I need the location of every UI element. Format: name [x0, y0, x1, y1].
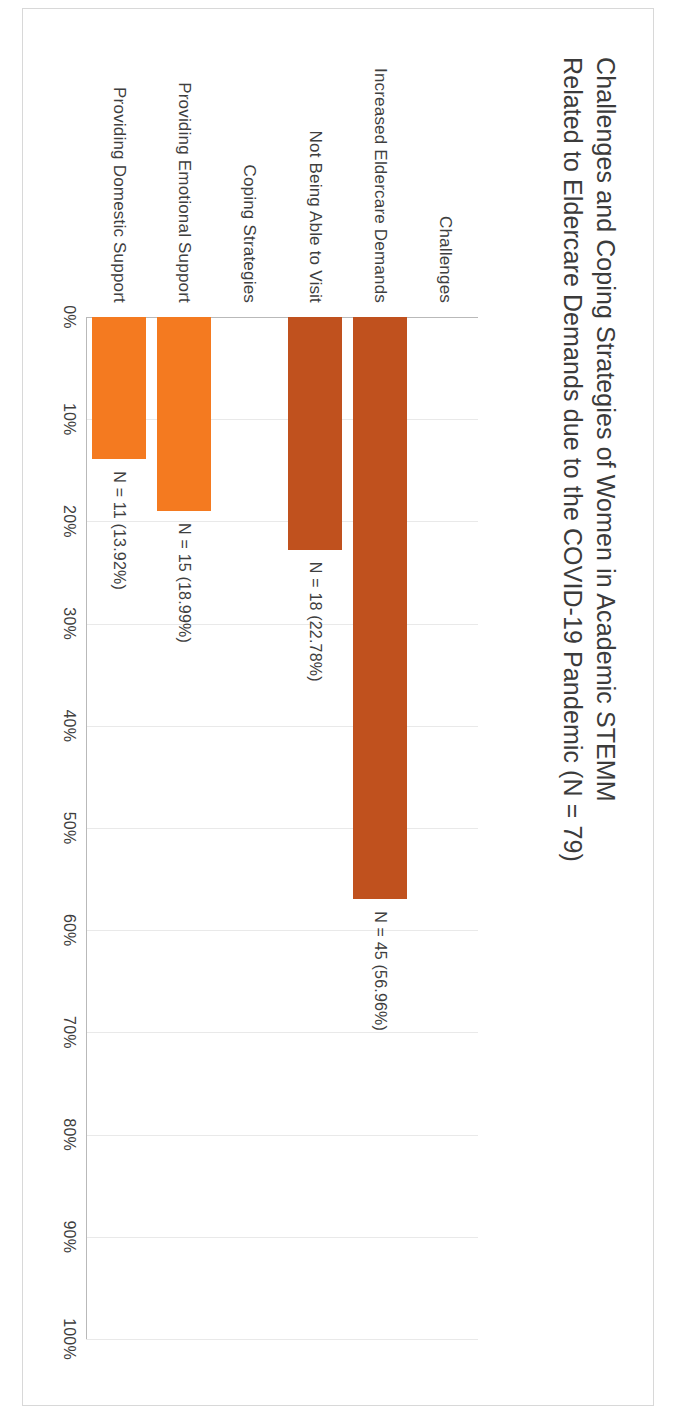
value-tick-label: 50%	[60, 812, 78, 845]
bar-row: N = 11 (13.92%)	[92, 317, 146, 1339]
bar-value-label: N = 45 (56.96%)	[371, 911, 389, 1031]
page-frame: Challenges and Coping Strategies of Wome…	[22, 8, 654, 1406]
rotated-chart-container: Challenges and Coping Strategies of Wome…	[28, 17, 648, 1397]
category-label: Providing Domestic Support	[109, 87, 129, 303]
bar-value-label: N = 11 (13.92%)	[110, 471, 128, 590]
value-tick-label: 40%	[60, 709, 78, 742]
bar-row: N = 18 (22.78%)	[288, 317, 342, 1339]
value-tick-label: 100%	[60, 1318, 78, 1360]
category-label: Providing Emotional Support	[174, 82, 194, 303]
category-axis-line	[86, 317, 87, 1339]
bar-value-label: N = 18 (22.78%)	[306, 562, 324, 682]
bar[interactable]	[353, 317, 407, 899]
value-tick-label: 10%	[60, 403, 78, 436]
value-tick-label: 70%	[60, 1016, 78, 1049]
value-tick-label: 30%	[60, 607, 78, 640]
gridline-100%	[86, 1339, 478, 1340]
value-tick-label: 80%	[60, 1118, 78, 1151]
category-label: Coping Strategies	[239, 164, 259, 303]
value-tick-label: 90%	[60, 1220, 78, 1253]
value-tick-label: 60%	[60, 914, 78, 947]
category-label: Challenges	[435, 216, 455, 303]
bar-value-label: N = 15 (18.99%)	[175, 523, 193, 643]
bar[interactable]	[288, 317, 342, 550]
value-axis-labels: 0%10%20%30%40%50%60%70%80%90%100%	[46, 317, 86, 1339]
value-tick-label: 0%	[60, 305, 78, 329]
category-label: Not Being Able to Visit	[305, 131, 325, 304]
bar[interactable]	[157, 317, 211, 511]
category-label: Increased Eldercare Demands	[370, 68, 390, 303]
bar-row: N = 45 (56.96%)	[353, 317, 407, 1339]
bar[interactable]	[92, 317, 146, 459]
bar-row: N = 15 (18.99%)	[157, 317, 211, 1339]
value-tick-label: 20%	[60, 505, 78, 538]
plot-area: N = 45 (56.96%)N = 18 (22.78%)N = 15 (18…	[86, 317, 478, 1339]
chart-title: Challenges and Coping Strategies of Wome…	[556, 57, 622, 877]
chart-figure: Challenges and Coping Strategies of Wome…	[28, 17, 648, 1397]
